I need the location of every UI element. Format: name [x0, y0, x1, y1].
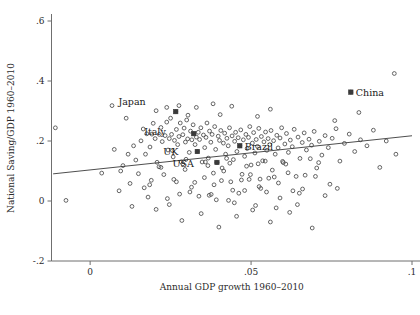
- data-point: [384, 139, 388, 143]
- data-point: [328, 182, 332, 186]
- data-point: [378, 166, 382, 170]
- data-point: [231, 158, 235, 162]
- data-point: [235, 150, 239, 154]
- data-point: [278, 136, 282, 140]
- data-point: [335, 187, 339, 191]
- x-axis-title: Annual GDP growth 1960–2010: [159, 282, 304, 292]
- y-tick-label: .4: [36, 76, 45, 86]
- data-point: [206, 164, 210, 168]
- data-point: [174, 180, 178, 184]
- data-point: [303, 173, 307, 177]
- data-point: [146, 195, 150, 199]
- data-point: [254, 204, 258, 208]
- data-point: [248, 125, 252, 129]
- data-point: [213, 125, 217, 129]
- data-point: [205, 121, 209, 125]
- data-point: [119, 169, 123, 173]
- data-point: [229, 180, 233, 184]
- data-point: [64, 199, 68, 203]
- country-label-japan: Japan: [117, 96, 145, 107]
- data-point: [334, 127, 338, 131]
- data-point: [167, 137, 171, 141]
- data-point: [273, 152, 277, 156]
- data-point: [110, 104, 114, 108]
- data-point: [196, 130, 200, 134]
- data-point: [283, 142, 287, 146]
- data-point: [247, 178, 251, 182]
- data-point: [142, 186, 146, 190]
- data-point: [186, 113, 190, 117]
- data-point: [256, 115, 260, 119]
- data-point: [291, 189, 295, 193]
- x-tick-label: .05: [244, 267, 259, 277]
- data-point: [239, 128, 243, 132]
- data-point: [323, 134, 327, 138]
- data-point: [185, 118, 189, 122]
- data-point: [228, 161, 232, 165]
- data-point: [139, 139, 143, 143]
- data-point: [249, 163, 253, 167]
- data-point: [258, 177, 262, 181]
- data-point: [208, 129, 212, 133]
- data-point: [285, 132, 289, 136]
- data-point: [278, 196, 282, 200]
- data-point: [212, 171, 216, 175]
- data-point: [216, 134, 220, 138]
- data-point: [174, 128, 178, 132]
- data-point: [272, 175, 276, 179]
- data-point: [240, 172, 244, 176]
- highlight-marker-brazil: [238, 144, 242, 148]
- data-point: [317, 161, 321, 165]
- data-point: [134, 158, 138, 162]
- country-label-china: China: [356, 87, 385, 98]
- data-point: [177, 104, 181, 108]
- data-point: [212, 183, 216, 187]
- data-point: [112, 148, 116, 152]
- data-point: [312, 130, 316, 134]
- data-point: [217, 225, 221, 229]
- data-point: [243, 154, 247, 158]
- data-point: [268, 107, 272, 111]
- data-point: [249, 173, 253, 177]
- data-point: [165, 197, 169, 201]
- data-point: [153, 137, 157, 141]
- data-point: [148, 183, 152, 187]
- data-point: [298, 157, 302, 161]
- data-point: [126, 152, 130, 156]
- data-point: [190, 185, 194, 189]
- data-point: [326, 146, 330, 150]
- highlight-marker-china: [349, 90, 353, 94]
- data-point: [214, 198, 218, 202]
- highlight-marker-usa: [215, 160, 219, 164]
- data-point: [392, 72, 396, 76]
- data-point: [317, 139, 321, 143]
- data-point: [209, 140, 213, 144]
- data-point: [294, 175, 298, 179]
- data-point: [199, 212, 203, 216]
- data-point: [180, 219, 184, 223]
- data-point: [149, 178, 153, 182]
- data-point: [230, 134, 234, 138]
- data-point: [124, 116, 128, 120]
- data-point: [188, 190, 192, 194]
- data-point: [167, 203, 171, 207]
- x-tick-label: 0: [87, 267, 93, 277]
- data-point: [315, 166, 319, 170]
- plot-svg: -.20.2.4.60.05.1 JapanItalyUKUSABrazilCh…: [0, 0, 420, 315]
- data-point: [227, 199, 231, 203]
- data-point: [307, 137, 311, 141]
- data-point: [233, 139, 237, 143]
- data-point: [202, 176, 206, 180]
- highlight-marker-japan: [174, 109, 178, 113]
- country-label-usa: USA: [173, 158, 195, 169]
- data-point: [100, 171, 104, 175]
- data-point: [263, 159, 267, 163]
- data-point: [333, 119, 337, 123]
- y-tick-label: .6: [36, 16, 45, 26]
- data-point: [214, 148, 218, 152]
- data-point: [170, 133, 174, 137]
- data-point: [236, 136, 240, 140]
- data-point: [243, 189, 247, 193]
- data-point: [247, 136, 251, 140]
- data-point: [302, 131, 306, 135]
